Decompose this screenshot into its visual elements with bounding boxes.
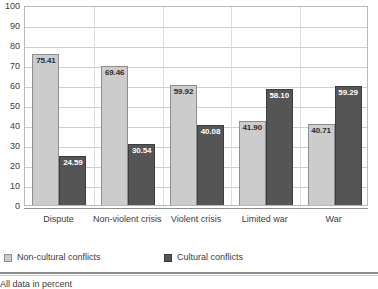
- footer-rule-thick: [0, 272, 378, 274]
- category-label: Violent crisis: [171, 214, 221, 225]
- bar-value-label: 69.46: [105, 69, 125, 77]
- legend-label: Non-cultural conflicts: [17, 253, 101, 262]
- y-axis-tick-100: 100: [5, 2, 20, 11]
- bar-value-label: 41.90: [243, 124, 263, 132]
- y-axis-tick-30: 30: [10, 142, 20, 151]
- bar[interactable]: 59.92: [170, 85, 197, 205]
- bar[interactable]: 30.54: [128, 144, 155, 205]
- bar-value-label: 40.71: [311, 127, 331, 135]
- bar-value-label: 30.54: [132, 147, 152, 155]
- category-label: War: [326, 214, 342, 225]
- bar-value-label: 59.29: [338, 89, 358, 97]
- bar-group: 41.9058.10: [231, 7, 300, 205]
- bar[interactable]: 24.59: [59, 156, 86, 205]
- bar-chart: 1009080706050403020100 75.4124.5969.4630…: [0, 0, 378, 289]
- legend-item[interactable]: Non-cultural conflicts: [4, 253, 101, 262]
- category-label: Dispute: [43, 214, 74, 225]
- bar-value-label: 40.08: [201, 128, 221, 136]
- y-axis-tick-10: 10: [10, 182, 20, 191]
- y-axis-tick-90: 90: [10, 22, 20, 31]
- category-axis: DisputeNon-violent crisisViolent crisisL…: [24, 208, 368, 230]
- category-label: Non-violent crisis: [93, 214, 162, 225]
- y-axis-tick-0: 0: [15, 202, 20, 211]
- legend: Non-cultural conflictsCultural conflicts: [4, 253, 374, 271]
- bar-value-label: 24.59: [63, 159, 83, 167]
- bar-group: 75.4124.59: [25, 7, 94, 205]
- footer-rule-thin: [0, 275, 378, 276]
- bar-value-label: 58.10: [270, 92, 290, 100]
- y-axis-tick-80: 80: [10, 42, 20, 51]
- bar-groups: 75.4124.5969.4630.5459.9240.0841.9058.10…: [25, 7, 367, 205]
- y-axis-tick-60: 60: [10, 82, 20, 91]
- bar[interactable]: 69.46: [101, 66, 128, 205]
- bar[interactable]: 75.41: [32, 54, 59, 205]
- bar-value-label: 75.41: [36, 57, 56, 65]
- bar[interactable]: 58.10: [266, 89, 293, 205]
- plot-wrapper: 1009080706050403020100 75.4124.5969.4630…: [0, 0, 378, 222]
- y-axis-tick-50: 50: [10, 102, 20, 111]
- bar[interactable]: 59.29: [335, 86, 362, 205]
- bar[interactable]: 40.71: [308, 124, 335, 205]
- legend-swatch-icon: [4, 254, 12, 262]
- category-axis-rule: [24, 208, 368, 209]
- y-axis-tick-70: 70: [10, 62, 20, 71]
- plot-area: 75.4124.5969.4630.5459.9240.0841.9058.10…: [24, 6, 368, 206]
- bar-group: 59.9240.08: [163, 7, 232, 205]
- legend-item[interactable]: Cultural conflicts: [164, 253, 243, 262]
- bar[interactable]: 40.08: [197, 125, 224, 205]
- footnote: All data in percent: [0, 279, 72, 289]
- bar[interactable]: 41.90: [239, 121, 266, 205]
- bar-group: 40.7159.29: [300, 7, 369, 205]
- y-axis-tick-40: 40: [10, 122, 20, 131]
- bar-group: 69.4630.54: [94, 7, 163, 205]
- legend-swatch-icon: [164, 254, 172, 262]
- y-axis: 1009080706050403020100: [0, 0, 24, 212]
- y-axis-tick-20: 20: [10, 162, 20, 171]
- legend-label: Cultural conflicts: [177, 253, 243, 262]
- category-label: Limited war: [242, 214, 288, 225]
- bar-value-label: 59.92: [174, 88, 194, 96]
